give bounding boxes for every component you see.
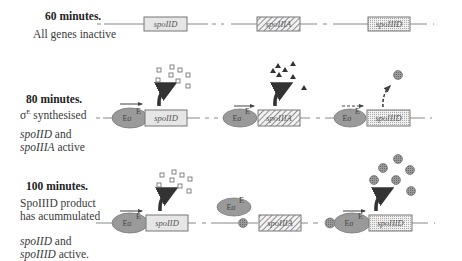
row-100-rnap-3: Eσ E [334,212,370,233]
row-100-gene-spoIIIA: spoIIIA [259,215,301,231]
row-100-transcript-arrow-1 [160,192,169,211]
svg-text:Eσ: Eσ [226,203,236,212]
svg-text:spoIIID: spoIIID [377,218,404,228]
svg-text:E: E [358,212,363,221]
row-100-spoIIID-repressor-1 [239,219,248,228]
svg-text:Eσ: Eσ [122,219,132,228]
row-60-gene-spoIIIA: spoIIIA [257,17,300,31]
row-80-gene-spoIID: spoIID [145,110,187,126]
svg-text:spoIIID: spoIIID [376,19,403,29]
svg-text:spoIID: spoIID [154,113,178,123]
svg-text:spoIIIA: spoIIIA [266,19,292,29]
row-100-rnap-free: Eσ E [217,196,251,216]
row-100-spoIID-products [157,170,192,193]
row-80-rnap-1: Eσ E [112,107,148,128]
row-80-rnap-3: Eσ E [334,107,366,127]
svg-text:Eσ: Eσ [232,114,242,123]
svg-text:E: E [355,107,360,116]
row-80-rnap-2: Eσ E [223,107,257,127]
row-80-transcript-arrow-3-dashed [383,86,390,107]
svg-text:spoIIID: spoIIID [375,113,402,123]
row-80-transcript-arrow-2 [275,87,284,106]
svg-text:Eσ: Eσ [344,219,354,228]
row-80-spoIIIA-products [270,61,307,90]
row-60-gene-spoIIID: spoIIID [368,17,410,31]
row-100-gene-spoIIID: spoIIID [369,215,412,231]
svg-text:spoIIIA: spoIIIA [267,218,293,228]
row-80-gene-spoIIID: spoIIID [367,110,410,126]
svg-text:Eσ: Eσ [342,114,352,123]
row-80-spoIIID-product [394,71,403,80]
svg-text:E: E [239,196,244,205]
svg-text:Eσ: Eσ [122,114,132,123]
row-100-rnap-1: Eσ E [112,212,148,233]
row-100-gene-spoIID: spoIID [146,215,188,231]
svg-text:spoIIIA: spoIIIA [266,113,292,123]
row-100-transcript-arrow-3 [376,192,385,211]
row-80-transcript-arrow-1 [159,87,168,106]
row-60-gene-spoIID: spoIID [144,17,187,31]
row-100-spoIIID-bound [325,218,335,228]
row-80-gene-spoIIIA: spoIIIA [258,110,300,126]
row-100-spoIIID-products [370,155,416,196]
svg-text:spoIID: spoIID [155,218,179,228]
svg-text:E: E [136,107,141,116]
row-80-spoIID-products [156,65,190,88]
svg-text:spoIID: spoIID [154,19,178,29]
svg-text:E: E [245,107,250,116]
svg-text:E: E [136,212,141,221]
